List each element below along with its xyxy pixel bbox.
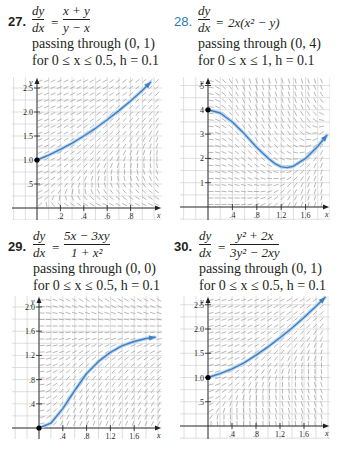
- y-tick-label: 1.5: [194, 349, 204, 358]
- initial-point: [205, 107, 210, 112]
- initial-point: [36, 425, 41, 430]
- passing-through-text: passing through (0, 4): [198, 36, 321, 52]
- y-tick-label: 2.0: [25, 303, 35, 312]
- axes: [180, 81, 326, 220]
- numerator: dy: [33, 229, 45, 243]
- x-axis-label: x: [324, 210, 329, 219]
- x-tick-label: .4: [60, 432, 66, 439]
- denominator: 1 + x²: [71, 246, 102, 260]
- passing-through-text: passing through (0, 0): [33, 261, 156, 277]
- x-tick-label: 1.2: [275, 430, 285, 439]
- grid-lines: [12, 77, 162, 220]
- derivative-fraction: dy dx: [198, 4, 210, 35]
- slope-field: [39, 299, 161, 426]
- numerator: dy: [32, 4, 44, 18]
- denominator: dx: [33, 246, 45, 260]
- initial-point: [205, 375, 210, 380]
- slope-field-plot-30: xy.4.81.21.6.51.01.52.02.5: [180, 296, 330, 439]
- y-tick-label: .4: [29, 400, 35, 409]
- equals-sign: =: [218, 240, 225, 256]
- y-tick-label: .5: [27, 180, 33, 189]
- y-axis-arrow-icon: [35, 78, 40, 84]
- numerator: y² + 2x: [236, 229, 273, 243]
- denominator: dx: [32, 21, 44, 35]
- x-tick-label: .6: [104, 212, 110, 220]
- passing-through-text: passing through (0, 1): [32, 36, 155, 52]
- y-tick-label: .8: [29, 376, 35, 385]
- x-axis-label: x: [156, 431, 161, 439]
- denominator: dx: [199, 246, 211, 260]
- rhs-fraction: 5x − 3xy 1 + x²: [64, 229, 110, 260]
- problem-number: 29.: [8, 239, 26, 254]
- derivative-fraction: dy dx: [32, 4, 44, 35]
- numerator: 5x − 3xy: [64, 229, 110, 243]
- x-tick-label: .8: [84, 432, 90, 439]
- x-tick-label: 1.6: [301, 211, 311, 220]
- x-axis-label: x: [324, 429, 329, 438]
- rhs-fraction: x + y y − x: [63, 4, 90, 35]
- rhs-expression: 2x(x² − y): [228, 15, 280, 31]
- equals-sign: =: [52, 240, 59, 256]
- x-tick-label: .4: [81, 212, 87, 220]
- y-tick-label: 3: [200, 130, 204, 139]
- problem-30: 30. dy dx = y² + 2x 3y² − 2xy passing th…: [168, 226, 338, 296]
- derivative-fraction: dy dx: [33, 229, 45, 260]
- derivative-fraction: dy dx: [199, 229, 211, 260]
- slope-field: [38, 79, 160, 207]
- problem-29: 29. dy dx = 5x − 3xy 1 + x² passing thro…: [0, 226, 168, 296]
- numerator: dy: [198, 4, 210, 18]
- y-tick-label: .5: [198, 398, 204, 407]
- problem-28: 28. dy dx = 2x(x² − y) passing through (…: [168, 0, 338, 75]
- y-tick-label: 2.5: [194, 301, 204, 310]
- initial-point: [34, 157, 39, 162]
- y-tick-label: 1.0: [23, 156, 33, 165]
- grid-lines: [180, 296, 330, 439]
- passing-through-text: passing through (0, 1): [199, 261, 322, 277]
- slope-field-plot-27: xy.2.4.6.8.51.01.52.02.5: [12, 77, 162, 220]
- problem-number: 30.: [174, 239, 192, 254]
- y-tick-label: 5: [200, 82, 204, 91]
- problem-27: 27. dy dx = x + y y − x passing through …: [0, 0, 168, 75]
- x-tick-label: .8: [128, 212, 134, 220]
- equals-sign: =: [51, 15, 58, 31]
- numerator: x + y: [63, 4, 90, 18]
- x-tick-label: 1.2: [105, 432, 115, 439]
- y-tick-label: 2.0: [194, 325, 204, 334]
- x-tick-label: 1.2: [276, 211, 286, 220]
- equals-sign: =: [216, 15, 223, 31]
- interval-text: for 0 ≤ x ≤ 0.5, h = 0.1: [199, 278, 326, 294]
- y-tick-label: 1.6: [25, 327, 35, 336]
- y-tick-label: 4: [200, 106, 204, 115]
- x-tick-label: 1.6: [129, 432, 139, 439]
- numerator: dy: [199, 229, 211, 243]
- y-tick-label: 2: [200, 154, 204, 163]
- x-axis-arrow-icon: [155, 206, 161, 211]
- y-tick-label: 1.2: [25, 351, 35, 360]
- problem-number: 28.: [174, 14, 192, 29]
- denominator: y − x: [63, 21, 90, 35]
- x-axis-arrow-icon: [323, 205, 329, 210]
- y-tick-label: 2.0: [23, 108, 33, 117]
- slope-field-plot-29: xy.4.81.21.6.4.81.21.62.0: [12, 296, 162, 439]
- problem-number: 27.: [8, 14, 26, 29]
- x-tick-label: .4: [229, 430, 235, 439]
- interval-text: for 0 ≤ x ≤ 0.5, h = 0.1: [32, 53, 159, 69]
- y-tick-label: 1.5: [23, 132, 33, 141]
- rhs-fraction: y² + 2x 3y² − 2xy: [230, 229, 279, 260]
- slope-field-plot-28: xy.4.81.21.612345: [180, 77, 330, 220]
- interval-text: for 0 ≤ x ≤ 0.5, h = 0.1: [33, 278, 160, 294]
- denominator: 3y² − 2xy: [230, 246, 279, 260]
- x-tick-label: .8: [254, 211, 260, 220]
- y-tick-label: 1.0: [194, 374, 204, 383]
- x-tick-label: .4: [229, 211, 235, 220]
- x-tick-label: .2: [57, 212, 63, 220]
- x-tick-label: .8: [253, 430, 259, 439]
- interval-text: for 0 ≤ x ≤ 1, h = 0.1: [198, 53, 315, 69]
- x-tick-label: 1.6: [299, 430, 309, 439]
- axes: [12, 300, 158, 439]
- x-axis-label: x: [156, 211, 161, 220]
- denominator: dx: [198, 21, 210, 35]
- y-tick-label: 1: [200, 179, 204, 188]
- y-tick-label: 2.5: [23, 84, 33, 93]
